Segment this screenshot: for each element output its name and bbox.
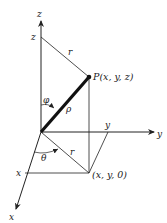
y-axis-label: y [156,129,163,139]
theta-label: θ [41,153,47,163]
point-p-label: P(x, y, z) [92,71,134,82]
point-p [87,75,92,80]
z-axis-label: z [36,9,42,19]
x-tick-label: x [16,168,21,178]
rho-label: ρ [65,104,72,114]
phi-label: φ [43,95,50,105]
y-projection-line [89,132,108,173]
spherical-coordinates-diagram: z z r P(x, y, z) φ ρ y y θ r x (x, y, 0)… [0,0,167,223]
x-axis-label: x [9,212,14,222]
projection-label: (x, y, 0) [92,169,127,180]
r-top-segment [41,37,89,77]
y-tick-label: y [104,120,111,130]
r-top-label: r [68,47,73,57]
r-bottom-label: r [70,147,75,157]
z-tick-label: z [30,32,36,42]
